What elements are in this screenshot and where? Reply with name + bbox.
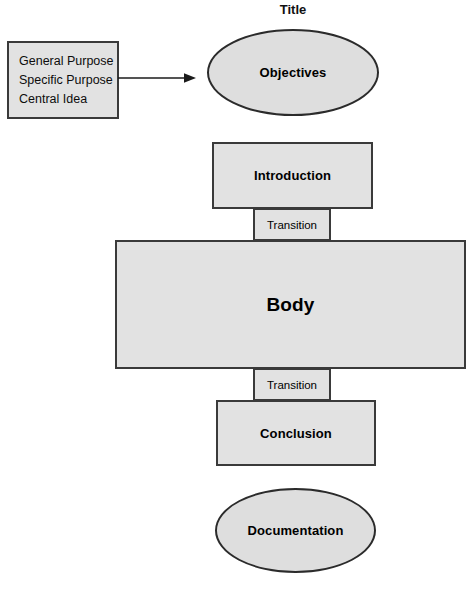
node-transition-lower-label: Transition: [267, 379, 317, 391]
node-introduction: Introduction: [212, 142, 373, 209]
node-body-label: Body: [267, 294, 315, 316]
node-objectives: Objectives: [207, 29, 379, 116]
node-conclusion-label: Conclusion: [260, 426, 332, 441]
node-transition-lower: Transition: [253, 368, 331, 401]
purpose-line-central-idea: Central Idea: [19, 90, 117, 109]
diagram-title: Title: [243, 2, 343, 17]
node-objectives-label: Objectives: [260, 65, 327, 80]
node-documentation-label: Documentation: [248, 523, 344, 538]
node-introduction-label: Introduction: [254, 168, 331, 183]
node-body: Body: [115, 240, 466, 369]
node-transition-upper-label: Transition: [267, 219, 317, 231]
purpose-line-specific: Specific Purpose: [19, 71, 117, 90]
node-conclusion: Conclusion: [216, 400, 376, 466]
purpose-line-general: General Purpose: [19, 52, 117, 71]
node-transition-upper: Transition: [253, 208, 331, 241]
node-documentation: Documentation: [215, 488, 376, 573]
arrow-right-icon: [118, 70, 196, 86]
speech-outline-diagram: Title General Purpose Specific Purpose C…: [0, 0, 471, 591]
purpose-box: General Purpose Specific Purpose Central…: [7, 41, 119, 119]
